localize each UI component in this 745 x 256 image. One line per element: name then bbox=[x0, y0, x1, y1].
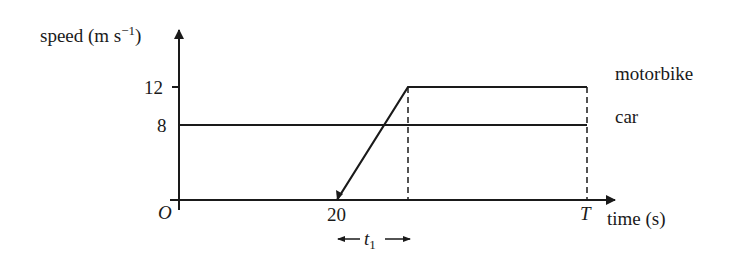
y-tick-label-8: 8 bbox=[157, 115, 167, 136]
origin-label: O bbox=[158, 202, 172, 223]
x-axis-label: time (s) bbox=[607, 208, 666, 230]
y-tick-label-12: 12 bbox=[144, 77, 163, 98]
x-tick-label-T: T bbox=[580, 203, 592, 224]
motorbike-line bbox=[337, 87, 587, 200]
series-label-car: car bbox=[615, 106, 639, 127]
speed-time-graph: speed (m s−1) 12 8 O 20 T time (s) motor… bbox=[0, 0, 745, 256]
y-axis-label: speed (m s−1) bbox=[40, 23, 141, 47]
series-label-motorbike: motorbike bbox=[615, 63, 693, 84]
interval-label-t1: t1 bbox=[364, 228, 376, 252]
x-tick-label-20: 20 bbox=[327, 204, 346, 225]
